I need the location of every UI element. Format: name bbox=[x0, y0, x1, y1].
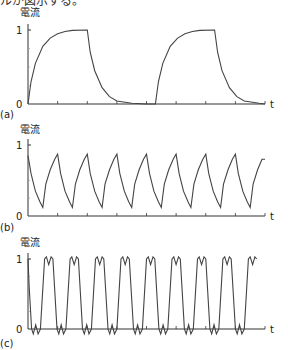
y-axis-label: 電流 bbox=[20, 236, 40, 248]
chart-panel-c: 電流 1 0 t (c) bbox=[0, 236, 274, 349]
y-axis-label: 電流 bbox=[20, 123, 40, 135]
y-tick-1: 1 bbox=[16, 25, 22, 36]
panel-label-b: (b) bbox=[0, 222, 14, 233]
x-axis-label: t bbox=[270, 211, 274, 222]
axes bbox=[28, 24, 265, 104]
x-axis-label: t bbox=[270, 99, 274, 110]
panel-label-c: (c) bbox=[0, 338, 13, 349]
y-tick-0: 0 bbox=[16, 211, 22, 222]
y-tick-0: 0 bbox=[16, 324, 22, 335]
current-waveform-figure: 電流 1 0 t (a) 電流 1 0 t (b) 電流 1 0 t (c) bbox=[0, 0, 288, 350]
current-curve bbox=[28, 154, 265, 207]
chart-panel-b: 電流 1 0 t (b) bbox=[0, 123, 274, 233]
panel-label-a: (a) bbox=[0, 109, 14, 120]
x-axis-label: t bbox=[270, 324, 274, 335]
y-tick-1: 1 bbox=[16, 254, 22, 265]
y-axis-label: 電流 bbox=[20, 6, 40, 18]
y-tick-0: 0 bbox=[16, 99, 22, 110]
y-tick-1: 1 bbox=[16, 140, 22, 151]
current-curve bbox=[28, 30, 265, 104]
axes bbox=[28, 139, 265, 216]
current-curve bbox=[28, 257, 257, 334]
chart-panel-a: 電流 1 0 t (a) bbox=[0, 6, 274, 120]
